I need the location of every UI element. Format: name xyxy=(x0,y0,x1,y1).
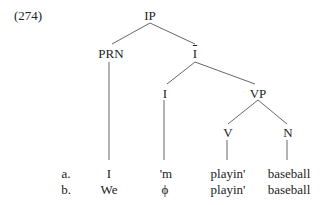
node-vp: VP xyxy=(250,87,267,101)
node-i: I xyxy=(163,87,167,101)
row-a-label: a. xyxy=(61,167,70,181)
example-number: (274) xyxy=(14,9,42,23)
row-b-label: b. xyxy=(61,183,71,197)
row-b-i: ϕ xyxy=(162,183,169,197)
row-b-v: playin' xyxy=(211,183,246,197)
node-n: N xyxy=(283,126,292,140)
node-v: V xyxy=(223,126,232,140)
node-i-bar: I xyxy=(193,47,197,61)
row-a-prn: I xyxy=(107,167,111,181)
node-ip: IP xyxy=(144,9,156,23)
row-b-prn: We xyxy=(101,183,118,197)
row-a-v: playin' xyxy=(211,167,246,181)
row-a-i: 'm xyxy=(160,167,172,181)
row-b-n: baseball xyxy=(268,183,311,197)
row-a-n: baseball xyxy=(268,167,311,181)
node-prn: PRN xyxy=(98,47,123,61)
